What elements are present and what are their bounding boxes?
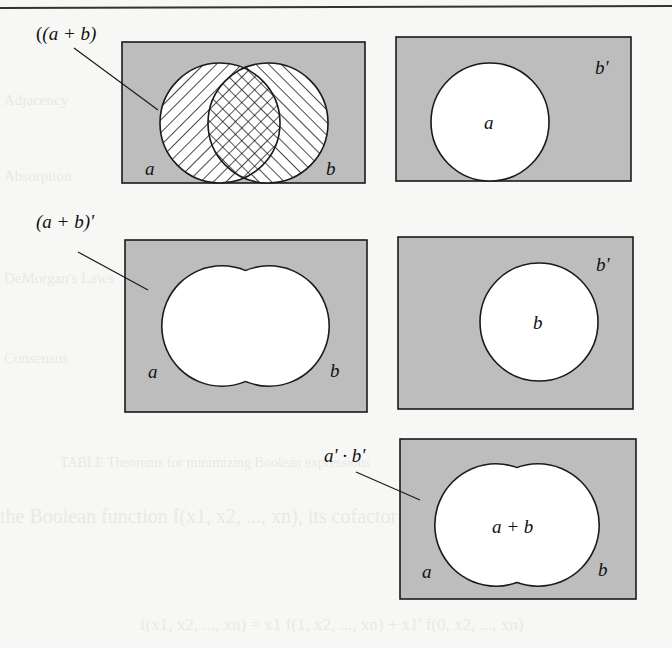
label-b: b: [326, 158, 336, 179]
corner-label-b-prime: b': [595, 57, 610, 78]
panel-b-complement-b: b b': [398, 237, 633, 409]
top-rule: [0, 6, 672, 8]
label-a: a: [422, 561, 432, 582]
panel-a-plus-b: ((a + b) a b: [36, 23, 365, 183]
label-a: a: [145, 158, 155, 179]
panel-a-prime-b-prime: a' · b' a + b a b: [324, 439, 636, 599]
callout-text: (a + b): [42, 23, 96, 45]
center-label-b: b: [533, 312, 543, 333]
panel-b-complement-a: a b': [396, 37, 631, 181]
venn-figure: ((a + b) a b a b' (a + b)' a b b b': [0, 0, 672, 648]
svg-text:((a + b): ((a + b): [36, 23, 96, 45]
center-label-a-plus-b: a + b: [492, 516, 533, 537]
panel-a-plus-b-complement: (a + b)' a b: [36, 211, 367, 412]
label-b: b: [330, 360, 340, 381]
label-a: a: [148, 361, 158, 382]
label-b: b: [598, 559, 608, 580]
callout-text: (a + b)': [36, 211, 95, 233]
center-label-a: a: [484, 112, 494, 133]
corner-label-b-prime: b': [596, 254, 611, 275]
callout-text: a' · b': [324, 445, 366, 466]
